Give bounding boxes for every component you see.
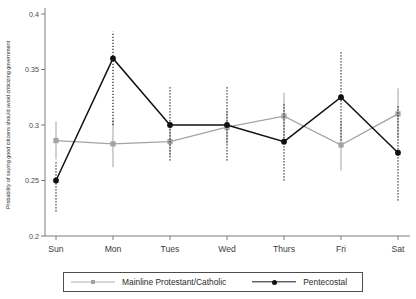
x-tick-label: Sat <box>392 244 406 254</box>
x-tick-label: Mon <box>105 244 122 254</box>
square-marker-icon <box>338 142 343 147</box>
data-series <box>53 32 401 212</box>
circle-marker-icon <box>224 122 230 128</box>
chart-canvas: 0.20.250.30.350.4SunMonTuesWedThursFriSa… <box>0 0 416 299</box>
circle-marker-icon <box>281 139 287 145</box>
y-tick-label: 0.3 <box>29 121 39 130</box>
x-tick-label: Fri <box>336 244 346 254</box>
square-marker-icon <box>91 280 96 285</box>
y-tick-label: 0.35 <box>25 65 39 74</box>
square-marker-icon <box>53 138 58 143</box>
legend-swatch-mainline <box>71 277 115 287</box>
x-tick-label: Tues <box>161 244 180 254</box>
legend-label-mainline: Mainline Protestant/Catholic <box>122 277 226 287</box>
chart-legend: Mainline Protestant/Catholic Pentecostal <box>63 272 363 292</box>
y-tick-label: 0.4 <box>29 10 39 19</box>
circle-marker-icon <box>272 280 277 285</box>
axes: 0.20.250.30.350.4SunMonTuesWedThursFriSa… <box>25 8 410 254</box>
circle-marker-icon <box>338 94 344 100</box>
circle-marker-icon <box>110 56 116 62</box>
x-tick-label: Thurs <box>273 244 295 254</box>
y-tick-label: 0.2 <box>29 232 39 241</box>
x-tick-label: Wed <box>218 244 236 254</box>
circle-marker-icon <box>395 150 401 156</box>
x-tick-label: Sun <box>48 244 64 254</box>
chart-figure: Probability of saying good citizens shou… <box>0 0 416 299</box>
circle-marker-icon <box>53 178 59 184</box>
legend-label-pentecostal: Pentecostal <box>303 277 347 287</box>
y-tick-label: 0.25 <box>25 176 39 185</box>
legend-entry-pentecostal: Pentecostal <box>252 273 347 291</box>
legend-swatch-pentecostal <box>252 277 296 287</box>
circle-marker-icon <box>167 122 173 128</box>
legend-entry-mainline: Mainline Protestant/Catholic <box>71 273 226 291</box>
square-marker-icon <box>110 141 115 146</box>
